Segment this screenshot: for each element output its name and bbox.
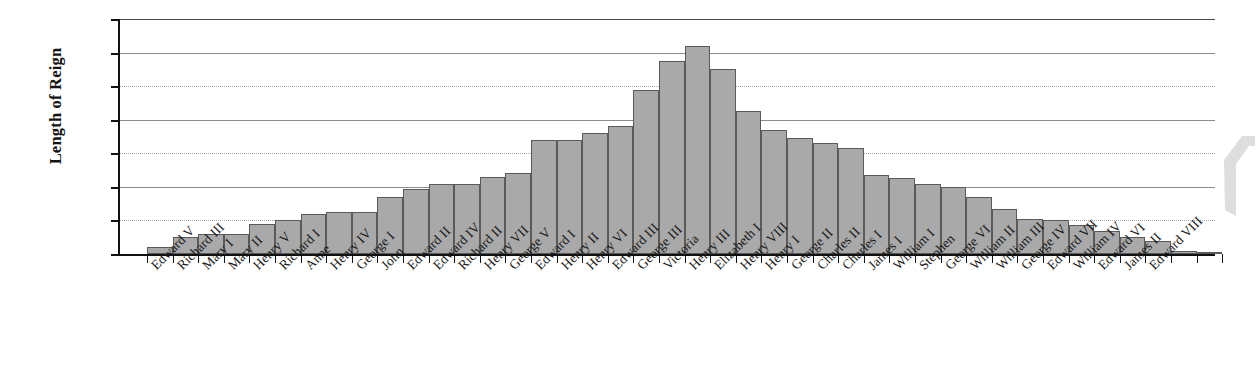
y-tick-mark-40 bbox=[111, 120, 120, 122]
y-tick-mark-50 bbox=[111, 86, 120, 88]
bar bbox=[1197, 252, 1223, 254]
y-tick-mark-30 bbox=[111, 153, 120, 155]
bar bbox=[685, 46, 711, 254]
scan-artifact-icon bbox=[1222, 130, 1256, 224]
y-tick-mark-0 bbox=[111, 254, 120, 256]
x-tick-labels-group: Edward VRichard IIIMary IMary IIHenry VR… bbox=[118, 262, 1259, 385]
plot-area bbox=[118, 19, 1215, 256]
y-axis-title: Length of Reign bbox=[46, 6, 66, 206]
bar-chart-figure: Length of Reign 706050403020100 Edward V… bbox=[0, 0, 1259, 385]
y-tick-mark-70 bbox=[111, 19, 120, 21]
y-tick-mark-20 bbox=[111, 187, 120, 189]
bars-group bbox=[120, 19, 1215, 254]
y-tick-mark-10 bbox=[111, 220, 120, 222]
y-tick-mark-60 bbox=[111, 53, 120, 55]
